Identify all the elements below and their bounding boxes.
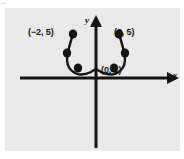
point-label-left: (−2, 5) bbox=[28, 27, 54, 37]
corner-mark: •• bbox=[1, 0, 15, 7]
point-label-vertex: (0, 1) bbox=[101, 65, 121, 75]
x-axis-label: x bbox=[173, 70, 178, 80]
data-point-vertex bbox=[74, 63, 82, 72]
data-point-x-neg2 bbox=[69, 29, 77, 38]
y-axis-label: y bbox=[85, 15, 89, 25]
figure-page: •• (−2, 5) (2, 5) (0, 1) y x bbox=[0, 0, 184, 159]
data-point-x-neg1 bbox=[63, 48, 71, 57]
data-point-x-pos-mid bbox=[121, 48, 129, 57]
y-axis-arrowhead bbox=[90, 15, 102, 27]
point-label-right: (2, 5) bbox=[114, 27, 134, 37]
